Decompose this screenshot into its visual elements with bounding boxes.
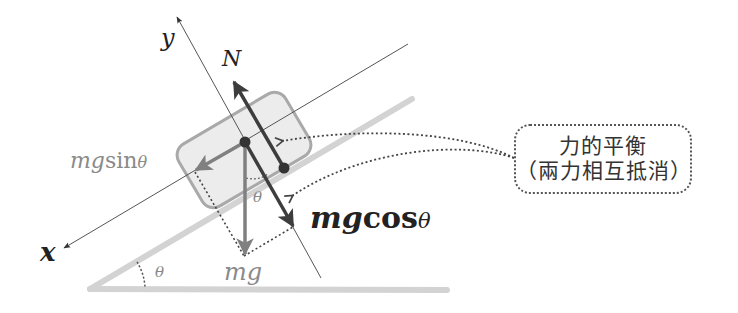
mg-cos-theta-label: mgcosθ (310, 203, 431, 233)
inner-angle-label: θ (253, 190, 262, 205)
incline-angle-label: θ (155, 265, 164, 280)
center-of-mass-dot (240, 137, 251, 148)
contact-point-dot (279, 163, 290, 174)
mg-sin-angle: θ (137, 153, 147, 172)
force-balance-callout: 力的平衡 （兩力相互抵消） (514, 124, 692, 194)
incline-free-body-diagram: y x N mgsinθ mgcosθ mg θ θ 力的平衡 （兩力相互抵消） (0, 0, 738, 313)
callout-leader-mgcos (292, 150, 514, 196)
x-axis-label: x (40, 239, 56, 265)
callout-title: 力的平衡 (559, 134, 647, 159)
normal-force-label: N (222, 48, 241, 70)
mg-cos-func: cos (363, 200, 418, 235)
mg-label: mg (224, 260, 262, 284)
y-axis-label: y (161, 26, 175, 50)
mg-cos-coef: mg (310, 200, 363, 235)
mg-sin-coef: mg (70, 148, 105, 173)
callout-subtitle: （兩力相互抵消） (516, 159, 690, 184)
incline-angle-arc (137, 262, 145, 288)
mg-sin-func: sin (105, 148, 138, 173)
mg-sin-theta-label: mgsinθ (70, 150, 147, 172)
mg-cos-angle: θ (418, 209, 431, 233)
